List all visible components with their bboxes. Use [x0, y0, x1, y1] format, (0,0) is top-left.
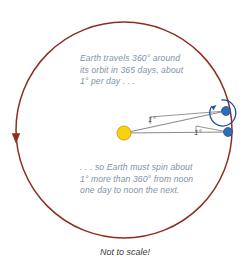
figure-caption: Not to scale!: [0, 247, 250, 257]
orbital-angle-label: 1°: [148, 115, 156, 124]
sun-ray-day-two: [124, 132, 228, 133]
sun-ray-day-one: [124, 111, 226, 133]
spin-arrowhead-icon: [212, 105, 217, 111]
sun-marker: [117, 126, 131, 140]
annotation-bottom: . . . so Earth must spin about 1° more t…: [80, 162, 210, 197]
earth-marker-day-two: [224, 128, 233, 137]
orbit-diagram-figure: 1° 1° Earth travels 360° around its orbi…: [0, 0, 250, 278]
orbit-direction-arrow-icon: [12, 134, 20, 144]
diagram-canvas: 1° 1°: [0, 0, 250, 278]
annotation-top: Earth travels 360° around its orbit in 3…: [80, 53, 205, 88]
spin-angle-label: 1°: [194, 128, 202, 137]
earth-marker-day-one: [222, 107, 231, 116]
